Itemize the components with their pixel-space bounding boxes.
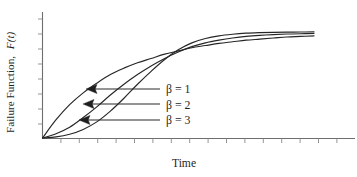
y-axis-label-symbol: F(t) <box>4 31 17 50</box>
y-axis-ticks <box>38 19 43 124</box>
legend-item-beta-3: β = 3 <box>166 113 191 127</box>
annotation-arrow-beta-1 <box>86 84 160 93</box>
x-axis-label: Time <box>172 157 196 170</box>
annotation-arrow-beta-3 <box>79 115 160 124</box>
legend-item-beta-2: β = 2 <box>166 98 191 112</box>
legend: β = 1 β = 2 β = 3 <box>166 82 191 127</box>
legend-item-beta-1: β = 1 <box>166 82 191 96</box>
chart-figure: Failure Function, F(t) <box>0 0 357 177</box>
y-axis-label: Failure Function, F(t) <box>4 31 17 133</box>
x-axis-ticks <box>61 139 337 144</box>
y-axis-label-main: Failure Function, <box>4 56 16 133</box>
svg-text:Failure Function, F(t): Failure Function, F(t) <box>4 31 17 133</box>
chart-canvas: Failure Function, F(t) <box>0 0 357 177</box>
